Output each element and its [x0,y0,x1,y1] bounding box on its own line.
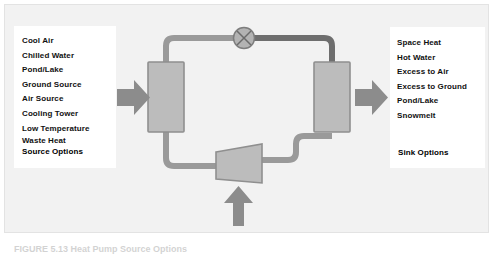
sink-option-item: Hot Water [397,51,485,66]
pipe-compressor-to-condenser [262,136,332,160]
figure-container: Cool Air Chilled Water Pond/Lake Ground … [0,0,493,257]
sink-option-item: Pond/Lake [397,94,485,109]
sink-option-item: Space Heat [397,36,485,51]
sink-output-arrow [355,80,388,115]
source-option-item: Waste Heat [22,136,116,147]
source-option-item: Cooling Tower [22,107,116,122]
pipe-evaporator-to-compressor [166,131,216,166]
sink-option-item: Excess to Air [397,65,485,80]
source-option-item: Chilled Water [22,49,116,64]
expansion-valve [234,28,255,49]
source-option-item: Low Temperature [22,124,116,135]
sink-option-item: Excess to Ground [397,80,485,95]
source-option-item: Cool Air [22,34,116,49]
sink-option-item: Snowmelt [397,109,485,124]
figure-caption: FIGURE 5.13 Heat Pump Source Options [14,244,187,254]
condenser-heat-exchanger [314,62,350,132]
evaporator-heat-exchanger [148,62,184,132]
compressor [216,144,262,183]
source-input-arrow [117,80,150,115]
sink-options-panel: Space Heat Hot Water Excess to Air Exces… [390,27,485,168]
source-option-item: Pond/Lake [22,63,116,78]
sink-options-title: Sink Options [398,148,449,157]
compressor-power-arrow [224,186,253,226]
source-option-item: Ground Source [22,78,116,93]
source-option-item: Air Source [22,92,116,107]
source-options-title: Source Options [22,147,83,156]
